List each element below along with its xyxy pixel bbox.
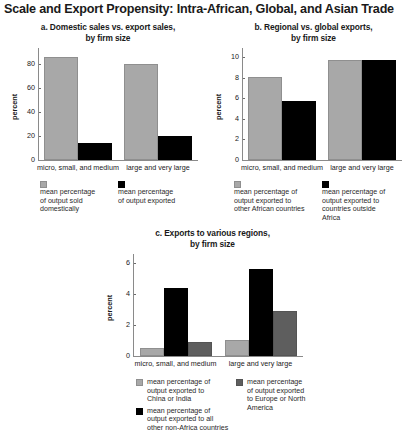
chart-a-y-tick-label: 0 xyxy=(31,156,35,163)
chart-c-bar-group xyxy=(133,258,218,356)
legend-label-line: America xyxy=(247,404,305,413)
figure-title: Scale and Export Propensity: Intra-Afric… xyxy=(4,2,416,16)
legend-swatch-icon xyxy=(136,379,143,386)
chart-c-y-tick-label: 0 xyxy=(126,352,130,359)
chart-c-legend-item: mean percentage ofoutput exported to all… xyxy=(136,407,236,433)
legend-label-line: of output sold xyxy=(40,197,95,206)
chart-c-bar xyxy=(249,269,273,356)
chart-c-y-ticks: 0246 xyxy=(113,258,133,356)
chart-a-x-label: micro, small, and medium xyxy=(37,164,119,172)
chart-c-x-label: large and very large xyxy=(229,360,293,368)
legend-column: mean percentage ofoutput exported toothe… xyxy=(234,180,322,222)
chart-b-title-line2: by firm size xyxy=(212,33,415,44)
chart-c-plot: percent 0246 micro, small, and mediumlar… xyxy=(105,252,320,362)
chart-b-bar-group xyxy=(242,52,322,160)
chart-b-legend-label: mean percentage ofoutput exported toothe… xyxy=(234,188,305,214)
chart-a-legend: mean percentageof output solddomesticall… xyxy=(40,180,200,214)
chart-a-y-tick-label: 40 xyxy=(27,108,35,115)
legend-label-line: output exported to xyxy=(322,197,385,206)
legend-label-line: output exported to all xyxy=(147,415,228,424)
legend-label-line: of output exported xyxy=(247,387,305,396)
chart-a-bar xyxy=(158,136,192,160)
legend-swatch-icon xyxy=(234,181,241,188)
chart-c-bar xyxy=(140,348,164,356)
chart-b-y-tick-label: 0 xyxy=(235,156,239,163)
chart-a-y-tick-label: 60 xyxy=(27,84,35,91)
chart-a-x-axis-line xyxy=(38,160,198,161)
chart-c-legend-label: mean percentageof output exportedto Euro… xyxy=(247,378,305,412)
chart-c-bar xyxy=(273,311,297,356)
legend-label-line: China or India xyxy=(147,395,210,404)
chart-c-bar xyxy=(188,342,212,356)
chart-a-bar xyxy=(78,143,112,160)
legend-swatch-icon xyxy=(118,181,125,188)
legend-label-line: mean percentage of xyxy=(234,188,305,197)
legend-label-line: to Europe or North xyxy=(247,395,305,404)
chart-c-legend-item: mean percentageof output exportedto Euro… xyxy=(236,378,336,412)
chart-b-y-tick-label: 8 xyxy=(235,74,239,81)
legend-column: mean percentage ofoutput exported toChin… xyxy=(136,378,236,436)
chart-panel-b: b. Regional vs. global exports, by firm … xyxy=(212,22,415,177)
legend-label-line: of output exported xyxy=(118,197,175,206)
chart-c-legend-label: mean percentage ofoutput exported toChin… xyxy=(147,378,210,404)
chart-c-bar xyxy=(164,288,188,356)
chart-a-legend-item: mean percentageof output exported xyxy=(118,180,175,214)
chart-c-y-tick-label: 2 xyxy=(126,321,130,328)
chart-c-legend: mean percentage ofoutput exported toChin… xyxy=(136,378,336,436)
legend-label-line: mean percentage xyxy=(40,188,95,197)
chart-b-bar xyxy=(248,77,282,160)
chart-a-y-tick-label: 80 xyxy=(27,60,35,67)
legend-label-line: other non-Africa countries xyxy=(147,424,228,433)
chart-b-title-line1: b. Regional vs. global exports, xyxy=(212,22,415,33)
legend-label-line: mean percentage xyxy=(247,378,305,387)
chart-c-title: c. Exports to various regions, by firm s… xyxy=(105,228,320,249)
legend-label-line: mean percentage xyxy=(118,188,175,197)
chart-b-title: b. Regional vs. global exports, by firm … xyxy=(212,22,415,43)
legend-label-line: domestically xyxy=(40,205,95,214)
legend-swatch-icon xyxy=(236,379,243,386)
chart-a-y-tick-label: 20 xyxy=(27,132,35,139)
chart-b-y-ticks: 0246810 xyxy=(222,52,242,160)
chart-c-x-label: micro, small, and medium xyxy=(135,360,217,368)
legend-label-line: countries outside xyxy=(322,205,385,214)
chart-b-y-tick-label: 4 xyxy=(235,115,239,122)
chart-b-legend-item: mean percentage ofoutput exported tocoun… xyxy=(322,180,385,222)
chart-b-bars xyxy=(242,52,402,160)
legend-label-line: output exported to xyxy=(234,197,305,206)
chart-c-bar xyxy=(225,340,249,356)
chart-c-y-tick-label: 4 xyxy=(126,290,130,297)
chart-panel-c: c. Exports to various regions, by firm s… xyxy=(105,228,320,378)
legend-label-line: Africa xyxy=(322,214,385,223)
chart-a-plot: percent 020406080 micro, small, and medi… xyxy=(8,46,208,166)
chart-b-y-tick-label: 10 xyxy=(231,54,239,61)
chart-panel-a: a. Domestic sales vs. export sales, by f… xyxy=(8,22,208,177)
legend-column: mean percentage ofoutput exported tocoun… xyxy=(322,180,412,222)
chart-b-x-axis-line xyxy=(242,160,402,161)
chart-a-title-line2: by firm size xyxy=(8,33,208,44)
legend-label-line: mean percentage of xyxy=(147,378,210,387)
chart-b-bar xyxy=(362,60,396,160)
chart-b-legend-item: mean percentage ofoutput exported toothe… xyxy=(234,180,305,222)
chart-b-y-tick-label: 6 xyxy=(235,95,239,102)
chart-c-title-line2: by firm size xyxy=(105,239,320,250)
chart-c-y-tick-label: 6 xyxy=(126,259,130,266)
chart-b-bar xyxy=(282,101,316,160)
chart-a-x-label: large and very large xyxy=(126,164,190,172)
legend-label-line: mean percentage of xyxy=(322,188,385,197)
chart-a-y-ticks: 020406080 xyxy=(18,52,38,160)
chart-b-bar-group xyxy=(322,52,402,160)
chart-b-legend: mean percentage ofoutput exported toothe… xyxy=(234,180,412,222)
chart-b-x-label: large and very large xyxy=(330,164,394,172)
chart-c-title-line1: c. Exports to various regions, xyxy=(105,228,320,239)
chart-a-bar xyxy=(124,64,158,160)
chart-c-x-axis-line xyxy=(133,356,303,357)
chart-c-legend-label: mean percentage ofoutput exported to all… xyxy=(147,407,228,433)
legend-column: mean percentageof output solddomesticall… xyxy=(40,180,118,214)
legend-column: mean percentageof output exportedto Euro… xyxy=(236,378,336,436)
chart-b-bar xyxy=(328,60,362,160)
chart-c-legend-item: mean percentage ofoutput exported toChin… xyxy=(136,378,236,404)
legend-label-line: mean percentage of xyxy=(147,407,228,416)
chart-a-bar-group xyxy=(38,52,118,160)
chart-c-bar-group xyxy=(218,258,303,356)
chart-b-plot: percent 0246810 micro, small, and medium… xyxy=(212,46,415,166)
